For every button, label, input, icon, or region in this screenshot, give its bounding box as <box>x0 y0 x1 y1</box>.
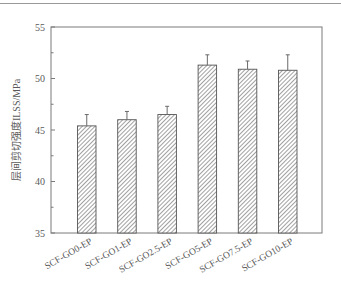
y-axis-ticks: 3540455055 <box>35 22 55 239</box>
bar-scf-go0-ep <box>78 115 97 233</box>
ilss-bar-chart: 3540455055 SCF-GO0-EPSCF-GO1-EPSCF-GO2.5… <box>0 0 341 291</box>
bar-rect <box>118 120 137 233</box>
bar-rect <box>78 126 97 233</box>
bar-scf-go5-ep <box>198 55 217 233</box>
y-tick-label: 55 <box>35 22 45 33</box>
bar-scf-go2_5-ep <box>158 106 177 233</box>
bar-rect <box>238 69 256 233</box>
bar-scf-go7_5-ep <box>238 61 256 233</box>
y-tick-label: 50 <box>35 73 45 84</box>
bar-scf-go1-ep <box>118 111 137 233</box>
bars-group <box>78 55 298 233</box>
bar-rect <box>279 70 298 233</box>
y-tick-label: 45 <box>35 125 45 136</box>
bar-rect <box>158 115 177 233</box>
x-axis-labels: SCF-GO0-EPSCF-GO1-EPSCF-GO2.5-EPSCF-GO5-… <box>43 236 295 275</box>
bar-scf-go10-ep <box>279 55 298 233</box>
bar-rect <box>198 65 217 233</box>
y-tick-label: 35 <box>35 228 45 239</box>
y-tick-label: 40 <box>35 176 45 187</box>
y-axis-title: 层间剪切强度ILSS/MPa <box>10 78 22 181</box>
